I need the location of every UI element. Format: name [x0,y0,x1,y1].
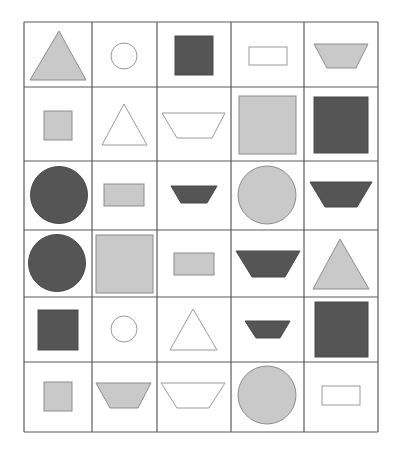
grid-cell-r4-c4 [315,302,368,357]
grid-cell-r2-c0 [31,167,88,224]
light-trapezoid-shape [314,44,368,68]
grid-cell-r0-c4 [314,44,368,68]
grid-cell-r3-c1 [96,235,153,293]
grid-cell-r1-c4 [314,97,368,153]
grid-cell-r4-c0 [38,310,78,350]
grid-cell-r5-c0 [44,382,72,411]
dark-trapezoid-shape [236,251,300,277]
outline-triangle-shape [170,309,217,350]
outline-circle-shape [111,43,137,69]
dark-square-shape [175,36,213,75]
grid-cell-r1-c1 [102,104,147,145]
grid-cell-r3-c3 [236,251,300,277]
dark-circle-shape [29,235,86,292]
dark-square-shape [314,97,368,153]
grid-cell-r3-c2 [174,253,214,275]
grid-lines [24,22,378,432]
grid-cell-r3-c0 [29,235,86,292]
grid-cell-r1-c2 [162,113,225,138]
grid-cell-r3-c4 [313,239,369,289]
dark-trapezoid-shape [310,182,372,207]
light-square-shape [44,111,72,140]
grid-cell-r2-c3 [238,166,296,224]
grid-cell-r4-c2 [170,309,217,350]
light-rectangle-shape [174,253,214,275]
shape-grid-canvas [0,0,395,456]
grid-cell-r2-c4 [310,182,372,207]
dark-trapezoid-shape [245,321,290,338]
light-square-shape [44,382,72,411]
light-rectangle-shape [104,184,144,206]
outline-trapezoid-shape [161,383,225,408]
outline-triangle-shape [102,104,147,145]
grid-cell-r5-c3 [238,366,296,424]
grid-cell-r5-c2 [161,383,225,408]
dark-circle-shape [31,167,88,224]
light-trapezoid-shape [96,383,151,408]
grid-cell-r1-c0 [44,111,72,140]
grid-cell-r1-c3 [239,96,296,154]
outline-trapezoid-shape [162,113,225,138]
grid-cell-r4-c1 [111,316,137,342]
grid-cell-r5-c4 [322,386,360,405]
light-circle-shape [238,166,296,224]
dark-trapezoid-shape [171,186,217,203]
cells-layer [29,31,373,424]
dark-square-shape [315,302,368,357]
light-square-shape [96,235,153,293]
grid-cell-r0-c2 [175,36,213,75]
shape-grid-diagram [0,0,395,456]
grid-cell-r0-c0 [30,31,86,80]
light-square-shape [239,96,296,154]
grid-cell-r2-c1 [104,184,144,206]
light-triangle-shape [30,31,86,80]
grid-cell-r4-c3 [245,321,290,338]
outline-rectangle-shape [322,386,360,405]
light-circle-shape [238,366,296,424]
outline-circle-shape [111,316,137,342]
light-triangle-shape [313,239,369,289]
grid-cell-r2-c2 [171,186,217,203]
outline-rectangle-shape [249,47,287,65]
grid-cell-r0-c1 [111,43,137,69]
grid-cell-r5-c1 [96,383,151,408]
dark-square-shape [38,310,78,350]
grid-cell-r0-c3 [249,47,287,65]
